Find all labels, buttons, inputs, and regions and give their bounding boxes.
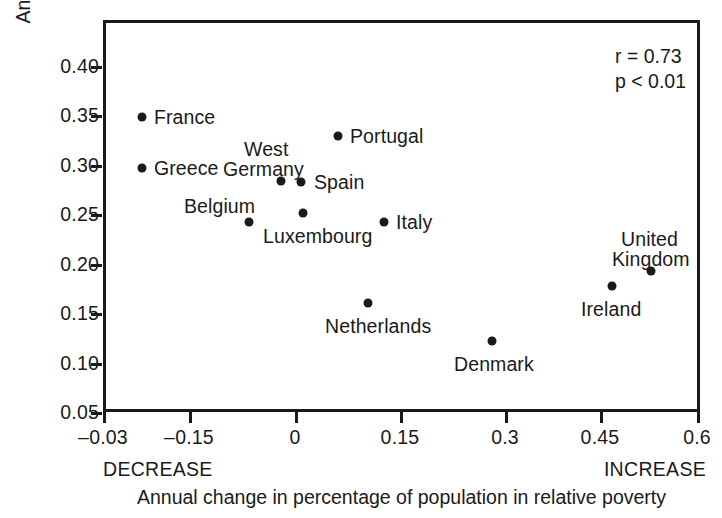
pvalue: p < 0.01 (615, 69, 686, 94)
x-tick-label: 0.45 (581, 426, 620, 449)
correlation-value: r = 0.73 (615, 44, 686, 69)
datapoint-luxembourg[interactable] (299, 209, 308, 218)
label-uk-line2: Kingdom (612, 249, 690, 269)
label-greece: Greece (154, 158, 219, 178)
datapoint-portugal[interactable] (334, 132, 343, 141)
x-tick-label: 0.15 (381, 426, 420, 449)
x-tick-label: –0.03 (78, 426, 128, 449)
x-tick-mark (697, 412, 700, 423)
label-uk-line1: United (621, 229, 678, 249)
plot-area: 0.40 0.35 0.30 0.25 0.20 0.15 0.10 0.05 (103, 20, 700, 412)
datapoint-ireland[interactable] (608, 282, 617, 291)
scatter-plot-figure: Annual change in life expectancy (years)… (0, 0, 722, 518)
label-belgium: Belgium (184, 196, 255, 216)
datapoint-netherlands[interactable] (364, 299, 373, 308)
x-tick-label: 0.3 (491, 426, 519, 449)
y-axis-title-text: Annual change in life expectancy (years) (12, 0, 35, 44)
label-luxembourg: Luxembourg (263, 226, 372, 246)
label-spain: Spain (314, 172, 364, 192)
x-axis-title: Annual change in percentage of populatio… (103, 486, 700, 509)
label-ireland: Ireland (581, 299, 641, 319)
y-tick-label: 0.30 (60, 154, 99, 177)
x-tick-mark (295, 412, 298, 423)
x-tick-mark (505, 412, 508, 423)
x-tick-mark (103, 412, 106, 423)
label-denmark: Denmark (454, 354, 534, 374)
x-tick-label: 0 (289, 426, 300, 449)
label-west-germany-line1: West (244, 139, 288, 159)
x-tick-mark (400, 412, 403, 423)
label-portugal: Portugal (350, 126, 423, 146)
datapoint-belgium[interactable] (245, 218, 254, 227)
y-tick-label: 0.40 (60, 55, 99, 78)
y-tick-label: 0.35 (60, 104, 99, 127)
datapoint-italy[interactable] (380, 218, 389, 227)
label-west-germany-line2: Germany (223, 159, 304, 179)
label-netherlands: Netherlands (325, 316, 431, 336)
x-tick-label: –0.15 (164, 426, 214, 449)
y-tick-label: 0.20 (60, 253, 99, 276)
datapoint-greece[interactable] (138, 164, 147, 173)
statistics-annotation: r = 0.73 p < 0.01 (615, 44, 686, 94)
x-tick-label: 0.6 (683, 426, 711, 449)
x-axis-increase-tag: INCREASE (604, 458, 706, 481)
x-tick-mark (189, 412, 192, 423)
y-tick-label: 0.05 (60, 401, 99, 424)
datapoint-denmark[interactable] (488, 337, 497, 346)
y-axis-title: Annual change in life expectancy (years) (12, 0, 36, 44)
label-france: France (154, 107, 215, 127)
y-tick-label: 0.15 (60, 302, 99, 325)
x-axis-decrease-tag: DECREASE (103, 458, 213, 481)
label-italy: Italy (396, 212, 432, 232)
y-tick-label: 0.25 (60, 203, 99, 226)
datapoint-france[interactable] (138, 113, 147, 122)
x-tick-mark (600, 412, 603, 423)
y-tick-label: 0.10 (60, 352, 99, 375)
